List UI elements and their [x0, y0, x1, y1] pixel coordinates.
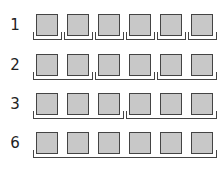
- group-row-3: 3: [0, 93, 222, 125]
- group-bracket: [64, 32, 93, 40]
- group-bracket: [95, 32, 124, 40]
- group-bracket: [95, 72, 155, 80]
- group-bracket: [188, 32, 217, 40]
- group-bracket: [157, 72, 217, 80]
- group-row-1: 1: [0, 14, 222, 46]
- group-bracket: [33, 111, 124, 119]
- row-label: 1: [8, 16, 22, 34]
- group-bracket: [157, 32, 186, 40]
- group-bracket: [33, 32, 62, 40]
- row-label: 3: [8, 95, 22, 113]
- group-row-2: 2: [0, 54, 222, 86]
- group-row-6: 6: [0, 132, 222, 164]
- group-bracket: [126, 111, 217, 119]
- row-label: 2: [8, 56, 22, 74]
- group-bracket: [126, 32, 155, 40]
- group-bracket: [33, 72, 93, 80]
- group-bracket: [33, 150, 217, 158]
- row-label: 6: [8, 134, 22, 152]
